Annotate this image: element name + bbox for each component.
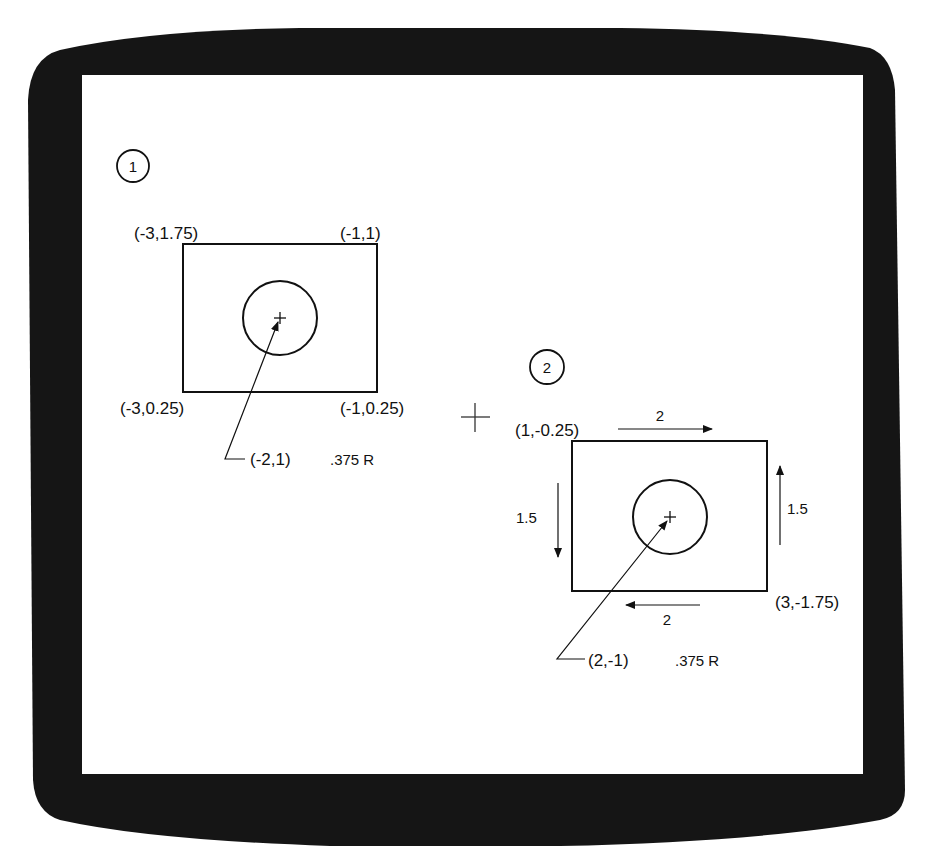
figure-2-corner-top-left: (1,-0.25) bbox=[515, 421, 579, 440]
figure-1-center-label: (-2,1) bbox=[250, 450, 291, 469]
figure-1-corner-top-left: (-3,1.75) bbox=[134, 224, 198, 243]
figure-2-bottom-dimension: 2 bbox=[663, 611, 671, 628]
figure-2-radius-label: .375 R bbox=[675, 652, 719, 669]
figure-2-number: 2 bbox=[543, 359, 551, 376]
figure-1-radius-label: .375 R bbox=[330, 451, 374, 468]
figure-2-top-dimension: 2 bbox=[656, 407, 664, 424]
figure-2-center-label: (2,-1) bbox=[588, 651, 629, 670]
figure-1-corner-top-right: (-1,1) bbox=[340, 224, 381, 243]
screen bbox=[82, 75, 863, 774]
figure-1-corner-bottom-left: (-3,0.25) bbox=[120, 399, 184, 418]
diagram-stage: 1 (-3,1.75) (-1,1) (-3,0.25) (-1,0.25) (… bbox=[0, 0, 936, 847]
figure-1-corner-bottom-right: (-1,0.25) bbox=[340, 399, 404, 418]
figure-1-number: 1 bbox=[129, 158, 137, 175]
figure-2-corner-bottom-right: (3,-1.75) bbox=[775, 593, 839, 612]
figure-2-right-dimension: 1.5 bbox=[787, 500, 808, 517]
figure-2-left-dimension: 1.5 bbox=[516, 509, 537, 526]
